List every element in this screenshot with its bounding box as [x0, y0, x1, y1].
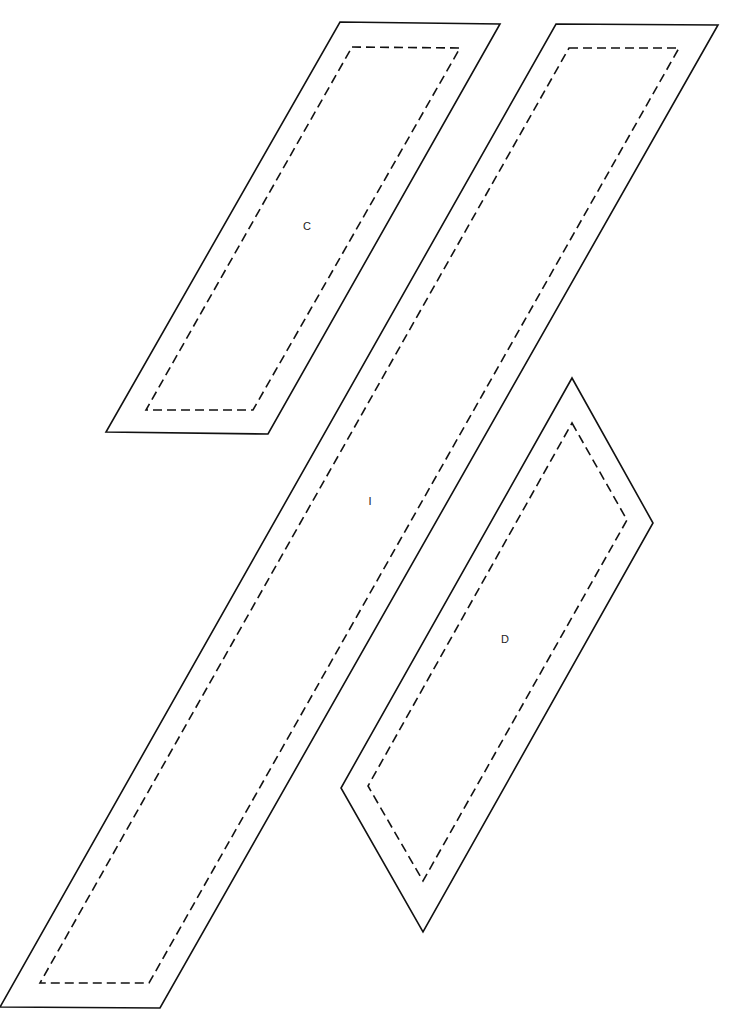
piece-label-i: I	[368, 495, 371, 507]
piece-label-d: D	[501, 633, 509, 645]
cut-line-i	[0, 24, 718, 1008]
cut-line-d	[341, 378, 653, 932]
pattern-piece-i: I	[0, 24, 718, 1008]
seam-line-i	[40, 48, 679, 983]
piece-label-c: C	[303, 220, 311, 232]
seam-line-d	[368, 423, 627, 881]
pattern-piece-d: D	[341, 378, 653, 932]
pattern-sheet: C I D	[0, 0, 739, 1025]
